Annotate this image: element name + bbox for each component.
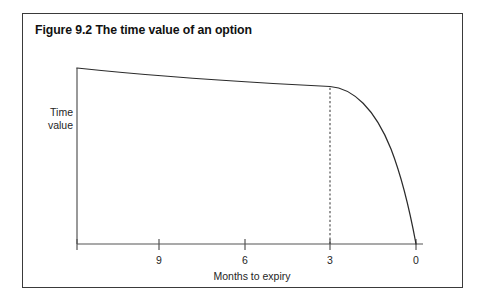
x-tick-label-6: 6 [242,254,248,266]
time-value-curve [77,68,416,244]
x-tick-label-3: 3 [327,254,333,266]
x-tick-label-9: 9 [156,254,162,266]
time-value-chart: 9 6 3 0 Months to expiry Time value [23,14,464,289]
screenshot-canvas: Figure 9.2 The time value of an option 9… [0,0,485,303]
y-axis-label-line2: value [48,119,73,131]
y-axis-label-line1: Time [50,106,73,118]
x-axis-title: Months to expiry [213,270,291,282]
x-tick-label-0: 0 [413,254,419,266]
figure-frame: Figure 9.2 The time value of an option 9… [22,13,463,288]
